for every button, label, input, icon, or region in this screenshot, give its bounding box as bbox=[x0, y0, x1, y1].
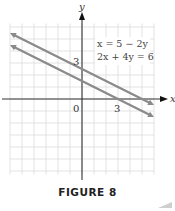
x-tick-label-3: 3 bbox=[114, 103, 120, 114]
figure-caption: FIGURE 8 bbox=[0, 186, 175, 198]
x-axis-arrow-icon bbox=[160, 96, 168, 102]
legend-entry-2: 2x + 4y = 6 bbox=[97, 51, 154, 62]
y-axis-arrow-icon bbox=[79, 12, 85, 20]
page-corner-mark bbox=[158, 202, 172, 208]
x-axis-label: x bbox=[170, 93, 175, 104]
y-tick-label-3: 3 bbox=[73, 56, 79, 67]
origin-label: 0 bbox=[73, 103, 79, 114]
graph-figure: y x 0 3 3 x = 5 − 2y 2x + 4y = 6 bbox=[0, 0, 175, 211]
legend-entry-1: x = 5 − 2y bbox=[97, 38, 148, 49]
y-axis-label: y bbox=[78, 1, 85, 12]
